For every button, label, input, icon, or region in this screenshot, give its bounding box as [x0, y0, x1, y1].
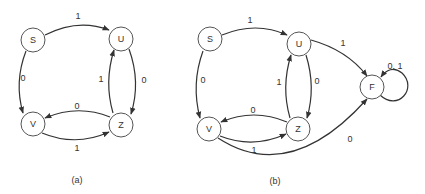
edge-label-b-s-u: 1 — [247, 15, 252, 25]
caption-b: (b) — [270, 176, 281, 186]
edge-label-b-f-f: 0, 1 — [387, 61, 402, 71]
edge-label-a-v-z: 1 — [74, 143, 79, 153]
state-node-a-z: Z — [109, 113, 133, 137]
svg-text:U: U — [296, 39, 303, 49]
state-node-b-f: F — [360, 75, 384, 99]
svg-text:S: S — [207, 34, 213, 44]
diagram-a: 1 0 0 1 0 1 S U V — [19, 11, 146, 185]
edge-b-v-to-z — [220, 134, 286, 142]
edge-label-b-u-z: 0 — [314, 76, 319, 86]
edge-b-u-to-f — [311, 40, 367, 76]
state-node-b-v: V — [197, 117, 221, 141]
edge-a-s-to-u — [45, 25, 109, 35]
state-node-b-u: U — [287, 32, 311, 56]
edge-b-s-to-u — [222, 28, 287, 35]
svg-text:F: F — [369, 82, 375, 92]
caption-a: (a) — [72, 175, 83, 185]
edge-label-a-s-u: 1 — [75, 11, 80, 21]
svg-text:V: V — [30, 119, 36, 129]
edge-b-z-to-v — [221, 115, 287, 122]
edge-label-b-v-f: 0 — [347, 134, 352, 144]
edge-label-b-u-f: 1 — [340, 38, 345, 48]
edge-a-z-to-u — [109, 50, 114, 113]
edge-label-b-s-v: 0 — [200, 75, 205, 85]
edge-a-u-to-z — [129, 49, 136, 114]
svg-text:Z: Z — [118, 120, 124, 130]
edge-b-u-to-z — [306, 55, 311, 118]
svg-text:V: V — [206, 124, 212, 134]
edge-a-z-to-v — [45, 111, 110, 118]
state-node-a-v: V — [21, 112, 45, 136]
state-node-a-s: S — [21, 28, 45, 52]
state-node-a-u: U — [109, 27, 133, 51]
edge-b-z-to-u — [286, 55, 291, 118]
svg-text:U: U — [118, 34, 125, 44]
edge-label-b-z-u: 1 — [276, 77, 281, 87]
edge-label-a-u-z: 0 — [141, 75, 146, 85]
diagram-b: 1 0 0 1 0 1 1 0 0, 1 — [196, 15, 408, 186]
edge-label-a-s-v: 0 — [20, 73, 25, 83]
svg-text:Z: Z — [295, 124, 301, 134]
edge-a-v-to-z — [42, 132, 109, 140]
edge-label-a-z-v: 0 — [74, 101, 79, 111]
svg-text:S: S — [30, 35, 36, 45]
edge-label-b-z-v: 0 — [250, 105, 255, 115]
edge-label-a-z-u: 1 — [98, 74, 103, 84]
state-diagram-figure: 1 0 0 1 0 1 S U V — [0, 0, 425, 194]
state-node-b-s: S — [198, 27, 222, 51]
state-node-b-z: Z — [286, 117, 310, 141]
